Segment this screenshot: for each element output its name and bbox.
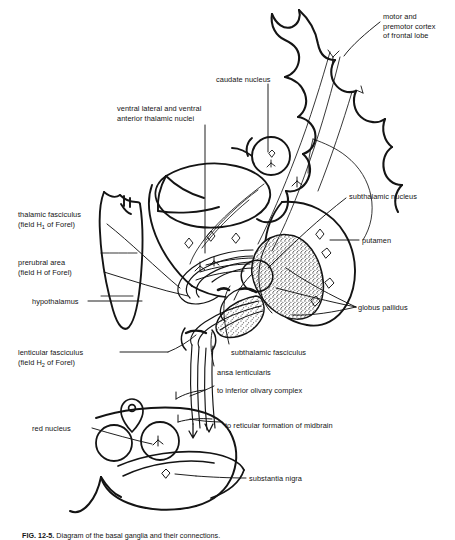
label-ansa-lenticularis: ansa lenticularis [217, 368, 271, 378]
cortex-inner-contour [308, 139, 372, 240]
label-substantia-nigra: substantia nigra [249, 474, 302, 484]
teardrop-nucleus [121, 399, 143, 432]
label-prerubral-area: prerubral area (field H of Forel) [18, 258, 72, 277]
label-subthalamic-fasciculus: subthalamic fasciculus [231, 348, 306, 358]
label-caudate-nucleus: caudate nucleus [216, 75, 271, 85]
caudate-cell [267, 150, 275, 167]
fiber-knot-descending [186, 331, 206, 333]
figure-caption: FIG. 12-5. Diagram of the basal ganglia … [22, 531, 220, 540]
label-thalamic-fasciculus: thalamic fasciculus (field H1 of Forel) [18, 210, 81, 232]
figure-number: FIG. 12-5. [22, 531, 54, 540]
leader-thalamic-fasciculus [107, 224, 180, 288]
hypothalamus-body [100, 192, 143, 329]
leader-motor-cortex [344, 22, 380, 56]
leader-substantia-nigra2 [175, 474, 196, 476]
striatal-afferent-fibers [190, 184, 264, 264]
substantia-nigra-band [123, 461, 214, 476]
label-red-nucleus: red nucleus [32, 424, 71, 434]
cortex-fiber-ticks [328, 50, 363, 93]
label-hypothalamus: hypothalamus [32, 297, 79, 307]
label-motor-and-premotor-cortex: motor and premotor cortex of frontal lob… [383, 12, 436, 41]
fiber-arrowheads [189, 424, 213, 438]
hypothalamus-internal-line [101, 253, 137, 296]
label-subthalamic-nucleus: subthalamic nucleus [349, 192, 417, 202]
leader-red-nucleus [92, 428, 152, 444]
caudate-hook [232, 138, 252, 156]
substantia-nigra-cell [162, 469, 170, 478]
label-to-reticular-formation-of-midbrain: to reticular formation of midbrain [225, 421, 333, 431]
label-ventral-thalamic-nuclei: ventral lateral and ventral anterior tha… [117, 104, 201, 123]
red-nucleus-cell [153, 436, 163, 446]
leader-inferior-olivary [190, 386, 214, 396]
label-to-inferior-olivary-complex: to inferior olivary complex [217, 386, 302, 396]
leader-substantia-nigra [196, 476, 246, 478]
red-nucleus-circles [96, 422, 179, 461]
label-globus-pallidus: globus pallidus [358, 303, 408, 313]
label-lenticular-fasciculus: lenticular fasciculus (field H2 of Forel… [18, 348, 83, 370]
cerebral-cortex-outline [257, 10, 402, 222]
figure-caption-text: Diagram of the basal ganglia and their c… [54, 531, 220, 540]
label-putamen: putamen [362, 236, 391, 246]
